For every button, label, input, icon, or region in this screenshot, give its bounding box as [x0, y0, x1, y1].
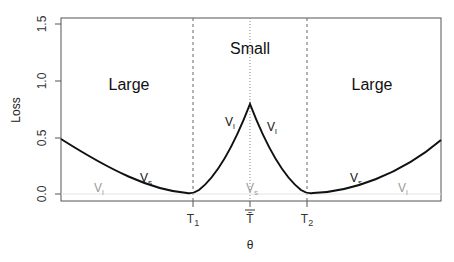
x-tick-Tbar: T̄	[246, 212, 254, 226]
curve-label-vl-left: Vl	[94, 181, 104, 197]
region-label-center: Small	[230, 40, 270, 57]
y-axis	[55, 24, 61, 194]
loss-chart: 0.0 0.5 1.0 1.5 Loss T1 T̄ T2 θ Large Sm…	[0, 0, 454, 262]
curve-label-vs-center: Vs	[246, 181, 258, 197]
region-label-right: Large	[352, 76, 393, 93]
curve-label-vl-right: Vl	[398, 181, 408, 197]
y-axis-title: Loss	[9, 97, 23, 122]
y-tick-labels: 0.0 0.5 1.0 1.5	[35, 15, 49, 202]
region-label-left: Large	[109, 76, 150, 93]
y-tick-3: 1.5	[35, 15, 49, 32]
curve-label-vl-peak-right: Vl	[267, 120, 277, 136]
x-axis-title: θ	[247, 238, 254, 252]
x-tick-T2: T2	[301, 212, 313, 228]
y-tick-0: 0.0	[35, 185, 49, 202]
curve-label-vs-right: Vs	[350, 171, 362, 187]
curve-label-vl-peak-left: Vl	[225, 115, 235, 131]
x-tick-T1: T1	[187, 212, 199, 228]
curve-label-vs-left: Vs	[140, 171, 152, 187]
y-tick-1: 0.5	[35, 129, 49, 146]
y-tick-2: 1.0	[35, 72, 49, 89]
x-axis	[193, 201, 307, 207]
loss-curve	[61, 104, 441, 193]
